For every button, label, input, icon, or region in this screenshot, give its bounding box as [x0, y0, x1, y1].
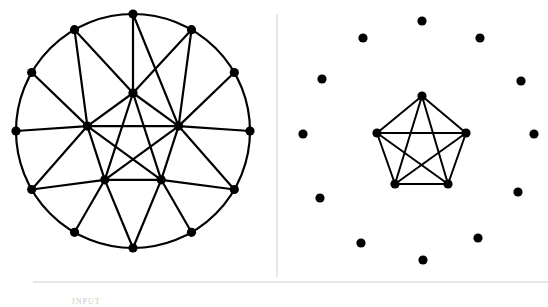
inner-vertex[interactable]	[128, 88, 137, 97]
input-caption: INPUT	[72, 297, 101, 306]
clique-vertex[interactable]	[372, 128, 381, 137]
isolated-vertex[interactable]	[317, 74, 326, 83]
outer-vertex[interactable]	[187, 25, 196, 34]
isolated-vertex[interactable]	[315, 193, 324, 202]
outer-vertex[interactable]	[11, 126, 20, 135]
isolated-vertex[interactable]	[298, 129, 307, 138]
isolated-vertex[interactable]	[358, 33, 367, 42]
graph-figure-svg	[0, 0, 548, 307]
isolated-vertex[interactable]	[529, 129, 538, 138]
inner-vertex[interactable]	[100, 175, 109, 184]
outer-vertex[interactable]	[128, 9, 137, 18]
isolated-vertex[interactable]	[513, 187, 522, 196]
outer-vertex[interactable]	[128, 243, 137, 252]
outer-vertex[interactable]	[230, 68, 239, 77]
figure-background	[0, 0, 548, 307]
inner-vertex[interactable]	[157, 175, 166, 184]
outer-vertex[interactable]	[230, 185, 239, 194]
figure-canvas: INPUT	[0, 0, 548, 307]
isolated-vertex[interactable]	[475, 33, 484, 42]
clique-vertex[interactable]	[417, 91, 426, 100]
outer-vertex[interactable]	[27, 68, 36, 77]
isolated-vertex[interactable]	[516, 76, 525, 85]
outer-vertex[interactable]	[245, 126, 254, 135]
inner-vertex[interactable]	[174, 122, 183, 131]
outer-vertex[interactable]	[70, 228, 79, 237]
clique-vertex[interactable]	[461, 128, 470, 137]
clique-vertex[interactable]	[443, 179, 452, 188]
isolated-vertex[interactable]	[417, 16, 426, 25]
isolated-vertex[interactable]	[473, 233, 482, 242]
outer-vertex[interactable]	[187, 228, 196, 237]
outer-vertex[interactable]	[70, 25, 79, 34]
inner-vertex[interactable]	[83, 122, 92, 131]
outer-vertex[interactable]	[27, 185, 36, 194]
clique-vertex[interactable]	[390, 179, 399, 188]
isolated-vertex[interactable]	[356, 238, 365, 247]
isolated-vertex[interactable]	[418, 255, 427, 264]
